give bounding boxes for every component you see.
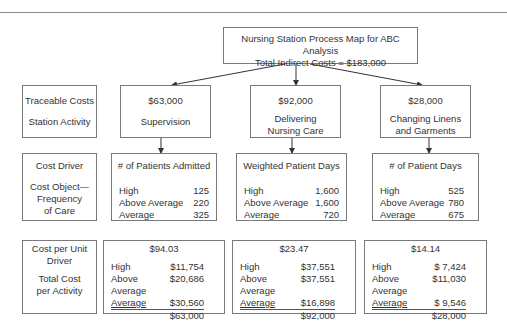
- activity-delivering-nursing-care: $92,000 Delivering Nursing Care: [250, 85, 341, 138]
- driver-row: High1,600: [244, 185, 339, 197]
- allocation-values: High$37,551 Above Average$37,551 Average…: [240, 261, 335, 322]
- row-label: High: [111, 261, 131, 273]
- driver-row: High525: [380, 185, 464, 197]
- driver-name: # of Patient Days: [373, 154, 478, 172]
- label-text: Cost per Unit: [23, 243, 96, 255]
- row-label: High: [240, 261, 260, 273]
- row-label: High: [380, 185, 400, 197]
- row-value: $30,560: [170, 297, 204, 309]
- row-label: Above Average: [240, 273, 301, 297]
- allocation-row: Average$30,560: [111, 297, 204, 310]
- allocation-row: Above Average$37,551: [240, 273, 335, 297]
- label-text: Station Activity: [23, 116, 96, 128]
- allocation-values: High$ 7,424 Above Average$11,030 Average…: [372, 261, 466, 322]
- allocation-row: Average$16,898: [240, 297, 335, 310]
- row-value: 780: [448, 197, 464, 209]
- driver-row: Above Average1,600: [244, 197, 339, 209]
- activity-name: and Garments: [381, 125, 470, 137]
- row-value: 1,600: [315, 185, 339, 197]
- row-label: Average: [119, 209, 154, 221]
- label-traceable-costs: Traceable Costs Station Activity: [22, 85, 97, 138]
- row-value: 125: [193, 185, 209, 197]
- allocation-row: High$37,551: [240, 261, 335, 273]
- driver-values: High525 Above Average780 Average675: [380, 185, 464, 221]
- row-value: $37,551: [301, 273, 335, 297]
- label-text: Driver: [23, 255, 96, 267]
- row-label: Average: [372, 297, 407, 309]
- row-label: High: [372, 261, 392, 273]
- driver-row: Average675: [380, 209, 464, 221]
- label-cost-per-unit: Cost per Unit Driver Total Cost per Acti…: [22, 240, 97, 314]
- row-label: Above Average: [119, 197, 183, 209]
- row-label: Above Average: [111, 273, 170, 297]
- total-row: $28,000: [372, 310, 466, 322]
- driver-row: Above Average220: [119, 197, 209, 209]
- driver-row: Average720: [244, 209, 339, 221]
- driver-row: High125: [119, 185, 209, 197]
- row-value: 1,600: [315, 197, 339, 209]
- total-value: $28,000: [432, 310, 466, 322]
- driver-row: Average325: [119, 209, 209, 221]
- label-text: Total Cost: [23, 273, 96, 285]
- row-value: 720: [323, 209, 339, 221]
- row-label: Average: [380, 209, 415, 221]
- title-box: Nursing Station Process Map for ABC Anal…: [223, 27, 418, 64]
- row-label: Average: [111, 297, 146, 309]
- driver-box-delivering: Weighted Patient Days High1,600 Above Av…: [236, 153, 347, 221]
- total-row: $63,000: [111, 310, 204, 322]
- activity-name: Delivering: [251, 113, 340, 125]
- row-value: 675: [448, 209, 464, 221]
- cost-box-delivering: $23.47 High$37,551 Above Average$37,551 …: [232, 240, 356, 314]
- row-value: $16,898: [301, 297, 335, 309]
- row-label: High: [244, 185, 264, 197]
- allocation-row: Above Average$20,686: [111, 273, 204, 297]
- activity-name: Nursing Care: [251, 125, 340, 137]
- activity-name: Changing Linens: [381, 113, 470, 125]
- row-value: 325: [193, 209, 209, 221]
- driver-name: Weighted Patient Days: [237, 154, 346, 172]
- driver-row: Above Average780: [380, 197, 464, 209]
- allocation-values: High$11,754 Above Average$20,686 Average…: [111, 261, 204, 322]
- unit-cost: $14.14: [365, 241, 486, 255]
- driver-values: High125 Above Average220 Average325: [119, 185, 209, 221]
- label-cost-driver: Cost Driver Cost Object— Frequency of Ca…: [22, 153, 97, 221]
- row-value: $ 7,424: [434, 261, 466, 273]
- allocation-row: High$ 7,424: [372, 261, 466, 273]
- total-value: $63,000: [170, 310, 204, 322]
- driver-values: High1,600 Above Average1,600 Average720: [244, 185, 339, 221]
- driver-box-linens: # of Patient Days High525 Above Average7…: [372, 153, 479, 221]
- activity-changing-linens: $28,000 Changing Linens and Garments: [380, 85, 471, 138]
- row-value: 220: [193, 197, 209, 209]
- row-label: Average: [244, 209, 279, 221]
- unit-cost: $94.03: [104, 241, 224, 255]
- activity-cost: $63,000: [121, 95, 210, 107]
- row-label: Above Average: [244, 197, 308, 209]
- row-label: Above Average: [380, 197, 444, 209]
- row-value: $ 9,546: [434, 297, 466, 309]
- driver-box-supervision: # of Patients Admitted High125 Above Ave…: [111, 153, 217, 221]
- cost-box-supervision: $94.03 High$11,754 Above Average$20,686 …: [103, 240, 225, 314]
- row-value: $11,754: [170, 261, 204, 273]
- allocation-row: High$11,754: [111, 261, 204, 273]
- row-value: $37,551: [301, 261, 335, 273]
- activity-supervision: $63,000 Supervision: [120, 85, 211, 138]
- allocation-row: Average$ 9,546: [372, 297, 466, 310]
- driver-name: # of Patients Admitted: [112, 154, 216, 172]
- total-value: $92,000: [301, 310, 335, 322]
- label-text: Cost Object—: [23, 181, 96, 193]
- title-line1: Nursing Station Process Map for ABC Anal…: [224, 33, 417, 57]
- title-line2: Total Indirect Costs = $183,000: [224, 57, 417, 69]
- row-value: $20,686: [170, 273, 204, 297]
- label-text: Frequency: [23, 193, 96, 205]
- label-text: of Care: [23, 205, 96, 217]
- row-value: 525: [448, 185, 464, 197]
- activity-cost: $92,000: [251, 95, 340, 107]
- label-text: Cost Driver: [23, 160, 96, 172]
- row-label: Average: [240, 297, 275, 309]
- row-label: Above Average: [372, 273, 432, 297]
- activity-cost: $28,000: [381, 95, 470, 107]
- row-label: High: [119, 185, 139, 197]
- label-text: per Activity: [23, 285, 96, 297]
- row-value: $11,030: [432, 273, 466, 297]
- label-text: Traceable Costs: [23, 95, 96, 107]
